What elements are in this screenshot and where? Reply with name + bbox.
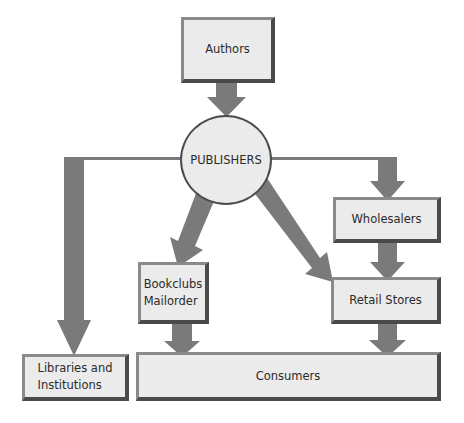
node-retail-stores: Retail Stores — [331, 277, 441, 324]
node-consumers: Consumers — [136, 352, 441, 401]
arrow-authors-to-publishers — [207, 82, 246, 117]
node-authors: Authors — [181, 17, 275, 83]
line-publishers-right — [270, 157, 397, 160]
arrow-publishers-to-retail — [252, 178, 333, 282]
node-publishers: PUBLISHERS — [180, 115, 272, 205]
node-consumers-label: Consumers — [256, 368, 321, 385]
node-libraries-institutions: Libraries and Institutions — [22, 354, 129, 401]
arrow-publishers-to-wholesalers — [370, 157, 405, 201]
arrow-wholesalers-to-retail — [370, 242, 405, 281]
arrow-publishers-to-libraries — [57, 157, 91, 356]
node-publishers-label: PUBLISHERS — [190, 153, 262, 167]
node-authors-label: Authors — [205, 41, 250, 58]
node-wholesalers-label: Wholesalers — [352, 211, 422, 228]
node-bookclubs-label: Bookclubs Mailorder — [144, 276, 203, 309]
node-wholesalers: Wholesalers — [333, 197, 441, 243]
node-libraries-label: Libraries and Institutions — [38, 360, 113, 393]
node-retail-label: Retail Stores — [349, 292, 422, 309]
node-bookclubs-mailorder: Bookclubs Mailorder — [138, 262, 209, 324]
